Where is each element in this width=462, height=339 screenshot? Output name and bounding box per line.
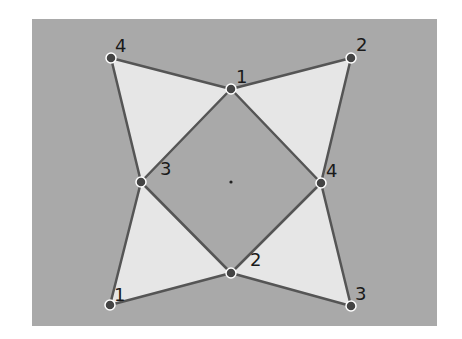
vertex-top-right-label: 2: [356, 34, 367, 55]
vertex-right-label: 4: [326, 160, 337, 181]
vertex-bottom-right-label: 3: [355, 283, 366, 304]
center-dot: [229, 180, 232, 183]
background-rect: [32, 19, 437, 326]
vertex-top-right-dot[interactable]: [346, 53, 356, 63]
vertex-left-label: 3: [160, 158, 171, 179]
vertex-right-dot[interactable]: [316, 178, 326, 188]
vertex-left-dot[interactable]: [136, 177, 146, 187]
vertex-bottom-left-label: 1: [114, 284, 125, 305]
vertex-bottom-label: 2: [250, 249, 261, 270]
vertex-top-left-label: 4: [115, 35, 126, 56]
vertex-bottom-dot[interactable]: [226, 268, 236, 278]
vertex-top-dot[interactable]: [226, 84, 236, 94]
vertex-top-label: 1: [236, 66, 247, 87]
diagram-canvas: 14234213: [0, 0, 462, 339]
